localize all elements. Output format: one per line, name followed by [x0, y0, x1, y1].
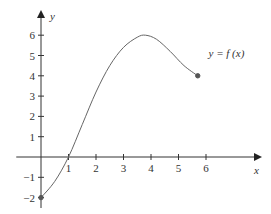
x-tick-label: 3	[121, 162, 127, 174]
endpoint-dot	[39, 195, 43, 199]
x-tick-label: 1	[66, 162, 72, 174]
chart: xy123456−2−1123456y = f (x)	[0, 0, 271, 214]
x-tick-label: 6	[203, 162, 209, 174]
x-tick-label: 4	[148, 162, 154, 174]
axes	[16, 12, 260, 208]
y-tick-label: −1	[23, 171, 35, 183]
series	[39, 35, 200, 200]
x-tick-label: 2	[93, 162, 99, 174]
y-tick-label: 4	[30, 70, 36, 82]
y-tick-label: 2	[30, 110, 36, 122]
y-axis-label: y	[49, 10, 55, 22]
y-tick-label: 5	[30, 50, 36, 62]
endpoint-dot	[196, 74, 200, 78]
x-tick-label: 5	[176, 162, 182, 174]
y-tick-label: −2	[23, 192, 35, 204]
curve-line	[41, 35, 198, 198]
y-tick-label: 3	[30, 90, 36, 102]
y-tick-label: 6	[30, 29, 36, 41]
y-tick-label: 1	[30, 131, 36, 143]
curve-annotation: y = f (x)	[208, 47, 245, 60]
x-axis-label: x	[253, 164, 259, 176]
